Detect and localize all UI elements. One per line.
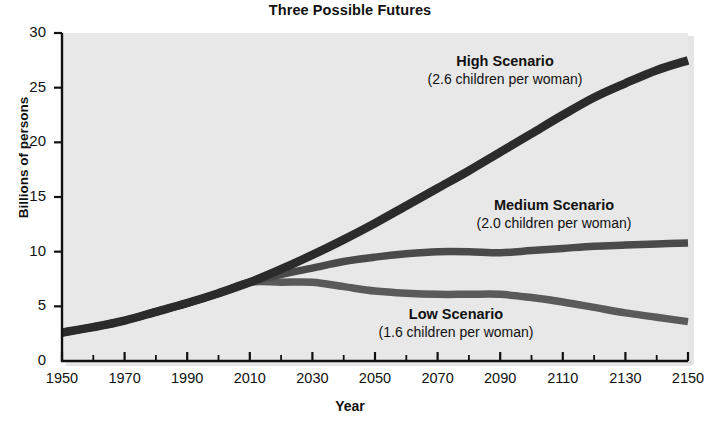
y-tick-label: 20 xyxy=(10,132,46,149)
x-tick-label: 1990 xyxy=(157,370,217,386)
x-tick-label: 2070 xyxy=(408,370,468,386)
annotation-subtitle: (2.6 children per woman) xyxy=(428,71,583,88)
series-annotation-medium: Medium Scenario(2.0 children per woman) xyxy=(477,197,632,232)
x-axis-label: Year xyxy=(0,398,700,414)
y-axis-label: Billions of persons xyxy=(16,88,31,228)
x-tick-label: 2050 xyxy=(345,370,405,386)
y-tick-label: 15 xyxy=(10,187,46,204)
annotation-title: Medium Scenario xyxy=(477,197,632,215)
y-tick-label: 0 xyxy=(10,351,46,368)
x-tick-label: 1970 xyxy=(95,370,155,386)
annotation-subtitle: (2.0 children per woman) xyxy=(477,215,632,232)
x-tick-label: 2130 xyxy=(595,370,655,386)
y-tick-label: 5 xyxy=(10,296,46,313)
annotation-subtitle: (1.6 children per woman) xyxy=(379,324,534,341)
x-tick-label: 2030 xyxy=(282,370,342,386)
series-annotation-low: Low Scenario(1.6 children per woman) xyxy=(379,306,534,341)
x-tick-label: 2090 xyxy=(470,370,530,386)
chart-title: Three Possible Futures xyxy=(0,2,700,18)
series-annotation-high: High Scenario(2.6 children per woman) xyxy=(428,53,583,88)
x-tick-label: 1950 xyxy=(32,370,92,386)
x-tick-label: 2010 xyxy=(220,370,280,386)
y-tick-label: 30 xyxy=(10,23,46,40)
y-tick-label: 10 xyxy=(10,242,46,259)
x-tick-label: 2150 xyxy=(658,370,709,386)
x-tick-label: 2110 xyxy=(533,370,593,386)
annotation-title: Low Scenario xyxy=(379,306,534,324)
y-tick-label: 25 xyxy=(10,78,46,95)
annotation-title: High Scenario xyxy=(428,53,583,71)
